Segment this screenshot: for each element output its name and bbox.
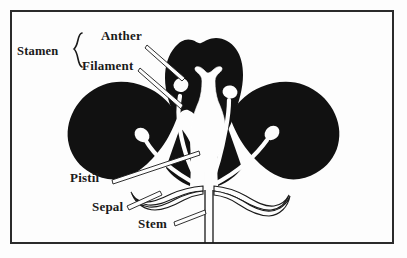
label-stamen: Stamen	[17, 44, 58, 59]
stamen-group-brace	[71, 32, 85, 68]
sepal-group	[131, 186, 290, 216]
label-filament: Filament	[82, 58, 133, 74]
flower-diagram	[0, 0, 407, 258]
label-pistil: Pistil	[70, 170, 99, 186]
stem-group	[205, 190, 213, 243]
leader-stem	[174, 210, 206, 226]
label-sepal: Sepal	[92, 199, 123, 215]
label-anther: Anther	[101, 28, 142, 44]
figure-page: Stamen Anther Filament Pistil Sepal Stem	[0, 0, 407, 258]
label-stem: Stem	[138, 216, 167, 232]
